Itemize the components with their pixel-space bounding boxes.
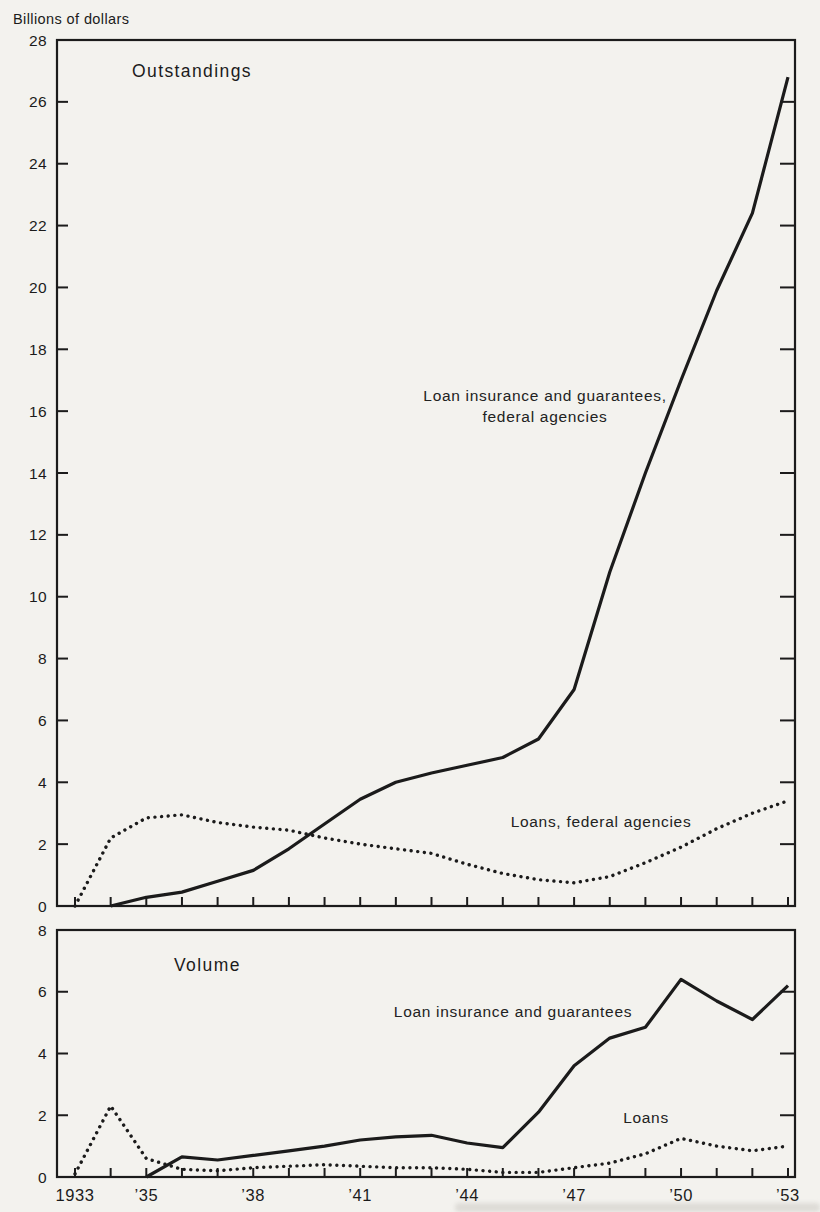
outstandings-y-tick-label: 4: [38, 774, 47, 791]
outstandings-y-tick-label: 10: [29, 588, 47, 605]
chart-figure: 0246810121416182022242628Loan insurance …: [0, 0, 820, 1212]
panel-title-outstandings: Outstandings: [132, 61, 252, 82]
outstandings-y-tick-label: 26: [29, 93, 47, 110]
outstandings-y-tick-label: 8: [38, 650, 47, 667]
scan-artifact: [455, 1203, 820, 1212]
outstandings-y-tick-label: 22: [29, 217, 47, 234]
volume-y-tick-label: 2: [38, 1107, 47, 1124]
outstandings-y-tick-label: 6: [38, 712, 47, 729]
x-tick-label: ’50: [669, 1186, 693, 1204]
volume-y-tick-label: 8: [38, 922, 47, 939]
panel-title-volume: Volume: [174, 955, 241, 976]
outstandings-y-tick-label: 16: [29, 403, 47, 420]
outstandings-y-tick-label: 28: [29, 32, 47, 49]
outstandings-y-axis: 0246810121416182022242628: [29, 32, 795, 915]
outstandings-y-tick-label: 2: [38, 836, 47, 853]
volume-loans-label: Loans: [623, 1109, 669, 1126]
volume-y-axis: 02468: [38, 922, 795, 1186]
outstandings-y-tick-label: 0: [38, 898, 47, 915]
x-tick-label: 1933: [55, 1186, 94, 1204]
x-tick-label: ’35: [134, 1186, 158, 1204]
volume-loans-line: [75, 1106, 788, 1174]
outstandings-y-tick-label: 12: [29, 526, 47, 543]
volume-x-axis: 1933’35’38’41’44’47’50’53: [55, 1168, 799, 1204]
x-tick-label: ’44: [455, 1186, 479, 1204]
x-tick-label: ’53: [776, 1186, 800, 1204]
outstandings-y-tick-label: 24: [29, 155, 47, 172]
volume-y-tick-label: 0: [38, 1169, 47, 1186]
outstandings-loans-label: Loans, federal agencies: [511, 813, 692, 830]
volume-loan_insurance_and_guarantees-label: Loan insurance and guarantees: [394, 1003, 632, 1020]
x-tick-label: ’41: [348, 1186, 372, 1204]
outstandings-y-tick-label: 14: [29, 465, 47, 482]
x-tick-label: ’38: [241, 1186, 265, 1204]
outstandings-y-tick-label: 18: [29, 341, 47, 358]
dual-panel-line-chart: 0246810121416182022242628Loan insurance …: [0, 0, 820, 1212]
y-axis-units-label: Billions of dollars: [13, 11, 129, 27]
outstandings-loan_insurance_and_guarantees-label: Loan insurance and guarantees,federal ag…: [423, 387, 666, 425]
outstandings-x-axis: [75, 897, 788, 906]
volume-y-tick-label: 4: [38, 1045, 47, 1062]
outstandings-y-tick-label: 20: [29, 279, 47, 296]
outstandings-panel: 0246810121416182022242628Loan insurance …: [29, 32, 795, 915]
volume-panel: 024681933’35’38’41’44’47’50’53Loan insur…: [38, 922, 800, 1205]
outstandings-frame: [57, 40, 795, 906]
volume-y-tick-label: 6: [38, 983, 47, 1000]
x-tick-label: ’47: [562, 1186, 586, 1204]
outstandings-loan_insurance_and_guarantees-line: [111, 77, 788, 906]
